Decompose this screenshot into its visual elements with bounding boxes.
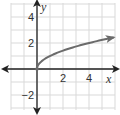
curve-start-point xyxy=(35,67,39,71)
y-tick-label: 2 xyxy=(28,37,34,49)
y-tick-label: −2 xyxy=(21,89,34,101)
y-axis-label: y xyxy=(40,0,47,14)
x-axis-label: x xyxy=(105,72,112,86)
y-tick-label: 4 xyxy=(28,11,34,23)
x-tick-label: 2 xyxy=(60,72,66,84)
square-root-graph: 2442−2 x y xyxy=(0,0,120,115)
x-tick-label: 4 xyxy=(86,72,92,84)
